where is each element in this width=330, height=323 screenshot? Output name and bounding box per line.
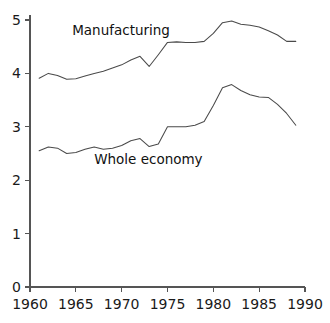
annotation-manufacturing: Manufacturing <box>72 22 170 38</box>
y-tick-label-3: 3 <box>12 119 21 135</box>
series-line-whole-economy <box>39 85 296 154</box>
x-tick-label-1975: 1975 <box>150 296 186 312</box>
y-tick-label-1: 1 <box>12 226 21 242</box>
y-axis-ticks <box>25 20 30 287</box>
line-chart-plot: 012345 1960196519701975198019851990 Manu… <box>0 0 330 323</box>
y-tick-label-0: 0 <box>12 279 21 295</box>
x-tick-label-1990: 1990 <box>287 296 323 312</box>
chart-container: 012345 1960196519701975198019851990 Manu… <box>0 0 330 323</box>
y-tick-label-2: 2 <box>12 172 21 188</box>
data-series-group <box>39 21 296 153</box>
x-tick-label-1985: 1985 <box>241 296 277 312</box>
x-tick-label-1960: 1960 <box>12 296 48 312</box>
y-axis-tick-labels: 012345 <box>12 12 21 295</box>
x-tick-label-1980: 1980 <box>196 296 232 312</box>
series-annotations-group: ManufacturingWhole economy <box>72 22 202 167</box>
x-axis-tick-labels: 1960196519701975198019851990 <box>12 296 323 312</box>
x-tick-label-1965: 1965 <box>58 296 94 312</box>
y-tick-label-4: 4 <box>12 65 21 81</box>
annotation-whole-economy: Whole economy <box>94 151 202 167</box>
x-tick-label-1970: 1970 <box>104 296 140 312</box>
y-tick-label-5: 5 <box>12 12 21 28</box>
x-axis-ticks <box>30 287 305 292</box>
